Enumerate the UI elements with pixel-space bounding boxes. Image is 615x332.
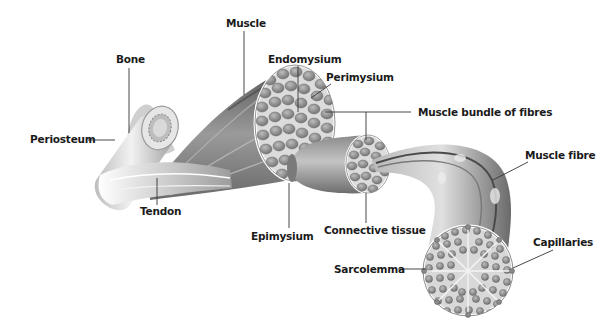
label-periosteum: Periosteum [30, 133, 96, 145]
label-endomysium: Endomysium [268, 53, 341, 65]
label-bone: Bone [116, 53, 145, 65]
muscle-structure-diagram: Muscle Bone Endomysium Perimysium Muscle… [0, 0, 615, 332]
label-capillaries: Capillaries [533, 236, 593, 248]
label-connective-tissue: Connective tissue [324, 224, 426, 236]
label-muscle-fibre: Muscle fibre [525, 149, 595, 161]
tendon-shape [99, 162, 233, 205]
label-sarcolemma: Sarcolemma [334, 263, 405, 275]
label-muscle: Muscle [226, 17, 266, 29]
label-perimysium: Perimysium [326, 71, 394, 83]
label-tendon: Tendon [140, 205, 181, 217]
label-muscle-bundle-of-fibres: Muscle bundle of fibres [418, 106, 552, 118]
label-epimysium: Epimysium [251, 230, 314, 242]
muscle-illustration [0, 0, 615, 332]
fibre-cross-section [422, 225, 515, 318]
